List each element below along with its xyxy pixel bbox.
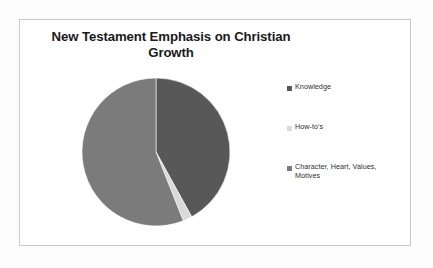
legend-item-knowledge[interactable]: Knowledge xyxy=(287,82,409,91)
legend-label-knowledge: Knowledge xyxy=(295,82,331,91)
legend-swatch-icon-knowledge xyxy=(287,86,292,91)
chart-title-line-1: New Testament Emphasis on Christian xyxy=(52,29,291,44)
legend-item-character[interactable]: Character, Heart, Values, Motives xyxy=(287,162,409,180)
legend-item-how-tos[interactable]: How-to's xyxy=(287,122,409,131)
legend-label-character: Character, Heart, Values, Motives xyxy=(295,162,376,180)
legend-label-character-line-2: Motives xyxy=(295,171,320,180)
slide-frame: New Testament Emphasis on Christian Grow… xyxy=(19,19,411,246)
slide-canvas: New Testament Emphasis on Christian Grow… xyxy=(0,0,433,268)
chart-title: New Testament Emphasis on Christian Grow… xyxy=(46,29,296,61)
legend-swatch-icon-character xyxy=(287,166,292,171)
pie-chart-svg xyxy=(78,78,234,226)
pie-plot-area xyxy=(78,78,234,226)
pie-slice-group xyxy=(82,78,230,226)
legend-label-character-line-1: Character, Heart, Values, xyxy=(295,162,376,171)
legend-swatch-icon-how-tos xyxy=(287,126,292,131)
chart-title-line-2: Growth xyxy=(148,45,194,60)
pie-chart-container: New Testament Emphasis on Christian Grow… xyxy=(20,20,412,247)
legend-label-how-tos: How-to's xyxy=(295,122,323,131)
